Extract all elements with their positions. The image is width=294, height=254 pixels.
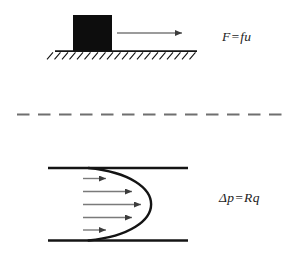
- sliding-block: [73, 15, 112, 51]
- ground-hatching: [47, 52, 196, 59]
- equation-friction: F=fu: [222, 29, 251, 45]
- physics-figure: F=fu Δp=Rq: [0, 0, 294, 254]
- equation-flow: Δp=Rq: [219, 190, 260, 206]
- friction-panel: [47, 15, 197, 59]
- pipe-flow-panel: [48, 168, 188, 241]
